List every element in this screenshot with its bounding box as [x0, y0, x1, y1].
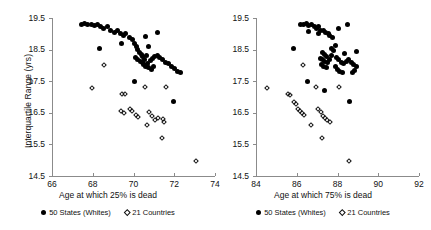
- data-point-countries: [160, 135, 166, 141]
- x-axis-tick: [52, 173, 53, 176]
- x-axis-tick-label: 90: [366, 180, 390, 189]
- x-axis-tick-label: 86: [285, 180, 309, 189]
- data-point-countries: [309, 123, 315, 129]
- y-axis-tick-label: 19.5: [223, 14, 249, 23]
- data-point-states: [171, 99, 176, 104]
- data-point-states: [291, 46, 296, 51]
- data-point-states: [143, 34, 148, 39]
- figure: Interquartile Range (yrs) Age at which 2…: [0, 0, 431, 230]
- y-axis-line: [256, 18, 257, 176]
- legend-left: 50 States (Whites) 21 Countries: [0, 208, 216, 217]
- x-axis-tick: [93, 173, 94, 176]
- data-point-states: [316, 31, 321, 36]
- x-axis-tick: [134, 173, 135, 176]
- data-point-states: [347, 99, 352, 104]
- x-axis-tick: [297, 173, 298, 176]
- data-point-countries: [162, 119, 168, 125]
- data-point-countries: [313, 84, 319, 90]
- data-point-states: [144, 53, 149, 58]
- filled-circle-icon: [41, 210, 46, 215]
- y-axis-tick-label: 19.5: [19, 14, 45, 23]
- data-point-countries: [327, 119, 333, 125]
- x-axis-label-left: Age at which 25% is dead: [0, 190, 216, 200]
- data-point-states: [340, 70, 345, 75]
- y-axis-tick: [49, 18, 52, 19]
- x-axis-tick-label: 68: [81, 180, 105, 189]
- y-axis-tick: [253, 18, 256, 19]
- data-point-states: [132, 79, 137, 84]
- x-axis-tick-label: 72: [162, 180, 186, 189]
- y-axis-tick: [253, 81, 256, 82]
- legend-entry-states: 50 States (Whites): [41, 208, 111, 217]
- data-point-countries: [135, 114, 141, 120]
- x-axis-line: [256, 176, 419, 177]
- open-diamond-icon: [124, 209, 130, 215]
- data-point-states: [146, 44, 151, 49]
- x-axis-tick: [419, 173, 420, 176]
- y-axis-tick: [49, 113, 52, 114]
- y-axis-line: [52, 18, 53, 176]
- data-point-states: [342, 51, 347, 56]
- data-point-countries: [287, 93, 293, 99]
- data-point-countries: [264, 85, 270, 91]
- x-axis-tick-label: 66: [40, 180, 64, 189]
- legend-label-states: 50 States (Whites): [49, 208, 111, 217]
- data-point-countries: [346, 158, 352, 164]
- data-point-countries: [101, 62, 107, 68]
- data-point-states: [330, 35, 335, 40]
- chart-panel-left: Interquartile Range (yrs) Age at which 2…: [0, 0, 216, 230]
- y-axis-tick: [49, 50, 52, 51]
- data-point-states: [333, 43, 338, 48]
- chart-panel-right: Age at which 75% is dead 50 States (Whit…: [215, 0, 431, 230]
- y-axis-tick: [49, 176, 52, 177]
- data-point-countries: [193, 158, 199, 164]
- data-point-states: [155, 30, 160, 35]
- y-axis-tick-label: 15.5: [19, 140, 45, 149]
- legend-label-states: 50 States (Whites): [264, 208, 326, 217]
- data-point-countries: [123, 92, 129, 98]
- data-point-states: [306, 29, 311, 34]
- data-point-countries: [145, 123, 151, 129]
- x-axis-tick-label: 70: [122, 180, 146, 189]
- x-axis-line: [52, 176, 215, 177]
- y-axis-tick-label: 18.5: [223, 45, 249, 54]
- data-point-states: [331, 48, 336, 53]
- data-point-countries: [89, 85, 95, 91]
- data-point-states: [305, 79, 310, 84]
- data-point-countries: [300, 62, 306, 68]
- data-point-countries: [319, 135, 325, 141]
- y-axis-tick-label: 17.5: [19, 77, 45, 86]
- x-axis-tick: [256, 173, 257, 176]
- legend-entry-countries: 21 Countries: [125, 208, 175, 217]
- y-axis-tick-label: 16.5: [223, 108, 249, 117]
- data-point-states: [178, 70, 183, 75]
- y-axis-tick: [49, 144, 52, 145]
- data-point-states: [324, 65, 329, 70]
- legend-label-countries: 21 Countries: [347, 208, 390, 217]
- y-axis-tick: [253, 113, 256, 114]
- x-axis-tick-label: 84: [244, 180, 268, 189]
- x-axis-tick-label: 92: [407, 180, 431, 189]
- filled-circle-icon: [256, 210, 261, 215]
- y-axis-tick-label: 18.5: [19, 45, 45, 54]
- x-axis-label-right: Age at which 75% is dead: [215, 190, 431, 200]
- data-point-states: [350, 70, 355, 75]
- data-point-countries: [142, 84, 148, 90]
- x-axis-tick-label: 88: [326, 180, 350, 189]
- data-point-states: [354, 49, 359, 54]
- data-point-states: [345, 22, 350, 27]
- x-axis-tick: [378, 173, 379, 176]
- x-axis-tick: [338, 173, 339, 176]
- data-point-states: [119, 41, 124, 46]
- data-point-states: [336, 26, 341, 31]
- legend-right: 50 States (Whites) 21 Countries: [215, 208, 431, 217]
- y-axis-tick: [49, 81, 52, 82]
- data-point-states: [151, 64, 156, 69]
- y-axis-tick-label: 17.5: [223, 77, 249, 86]
- open-diamond-icon: [339, 209, 345, 215]
- data-point-states: [322, 88, 327, 93]
- y-axis-tick: [253, 176, 256, 177]
- legend-entry-states: 50 States (Whites): [256, 208, 326, 217]
- data-point-countries: [163, 84, 169, 90]
- data-point-countries: [336, 84, 342, 90]
